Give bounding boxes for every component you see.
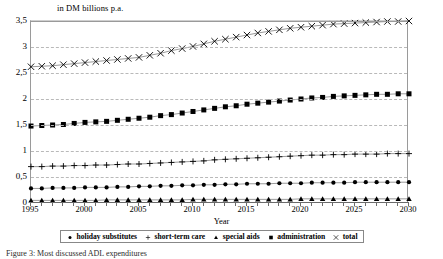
- x-axis-tick: [235, 202, 236, 206]
- data-point: [353, 93, 358, 98]
- data-point: [212, 157, 218, 163]
- x-axis-tick: [52, 202, 53, 206]
- chart-legend: holiday substitutesshort-term carespecia…: [60, 230, 364, 243]
- data-point: [126, 185, 130, 189]
- data-point: [223, 182, 227, 186]
- x-axis-tick: [170, 202, 171, 206]
- x-axis-tick: [149, 202, 150, 206]
- y-axis-tick-label: 2: [1, 93, 27, 103]
- data-point: [364, 180, 368, 184]
- series-line: [31, 199, 409, 201]
- data-point: [266, 154, 272, 160]
- data-point: [266, 100, 271, 105]
- legend-label: special aids: [223, 232, 260, 241]
- data-point: [276, 154, 282, 160]
- data-point: [320, 152, 326, 158]
- data-point: [191, 183, 195, 187]
- chart-figure: in DM billions p.a. 3,532,521,510,50 199…: [0, 0, 443, 259]
- gridline: [31, 125, 407, 126]
- data-point: [137, 116, 142, 121]
- data-point: [191, 109, 196, 114]
- gridline: [31, 177, 407, 178]
- data-point: [407, 180, 411, 184]
- data-point: [83, 185, 87, 189]
- data-point: [255, 30, 261, 36]
- data-point: [126, 117, 131, 122]
- y-axis-tick-label: 2,5: [1, 67, 27, 77]
- legend-label: total: [343, 232, 358, 241]
- data-point: [331, 181, 335, 185]
- data-point: [299, 181, 303, 185]
- legend-item: special aids: [212, 232, 259, 241]
- data-point: [245, 102, 250, 107]
- figure-caption: Figure 3: Most discussed ADL expenditure…: [6, 249, 147, 258]
- data-point: [94, 185, 98, 189]
- data-point: [407, 91, 412, 96]
- data-point: [115, 185, 119, 189]
- data-point: [60, 163, 66, 169]
- data-point: [190, 158, 196, 164]
- data-point: [222, 36, 228, 42]
- data-point: [28, 164, 34, 170]
- data-point: [256, 182, 260, 186]
- data-point: [244, 32, 250, 38]
- data-point: [29, 186, 33, 190]
- x-axis-tick: [257, 202, 258, 206]
- data-point: [309, 152, 315, 158]
- data-point: [342, 181, 346, 185]
- data-point: [82, 163, 88, 169]
- data-point: [211, 38, 217, 44]
- gridline: [31, 47, 407, 48]
- data-point: [147, 160, 153, 166]
- data-point: [201, 158, 207, 164]
- data-point: [137, 184, 141, 188]
- data-point: [234, 182, 238, 186]
- data-point: [233, 156, 239, 162]
- data-point: [157, 50, 163, 56]
- data-point: [114, 162, 120, 168]
- data-point: [201, 107, 206, 112]
- data-point: [180, 183, 184, 187]
- data-point: [223, 104, 228, 109]
- legend-label: short-term care: [155, 232, 206, 241]
- data-point: [342, 93, 347, 98]
- data-point: [222, 156, 228, 162]
- y-axis-tick-label: 0,5: [1, 171, 27, 181]
- data-point: [158, 113, 163, 118]
- data-point: [396, 180, 400, 184]
- data-point: [147, 115, 152, 120]
- series-line: [31, 182, 409, 188]
- data-point: [158, 160, 164, 166]
- data-point: [233, 34, 239, 40]
- plot-area: [30, 20, 408, 202]
- data-point: [51, 186, 55, 190]
- series-layer: [31, 21, 409, 203]
- data-point: [202, 183, 206, 187]
- x-axis-tick-label: 2025: [346, 204, 363, 214]
- x-axis-tick-label: 2015: [238, 204, 255, 214]
- y-axis-tick-label: 1: [1, 145, 27, 155]
- data-point: [330, 152, 336, 158]
- gridline: [31, 151, 407, 152]
- series-short-term-care: [28, 151, 412, 170]
- x-axis-tick-label: 1995: [22, 204, 39, 214]
- data-point: [39, 164, 45, 170]
- x-axis-tick: [224, 202, 225, 206]
- x-axis-tick-label: 2020: [292, 204, 309, 214]
- data-point: [136, 161, 142, 167]
- x-axis-tick: [386, 202, 387, 206]
- data-point: [115, 118, 120, 123]
- data-point: [298, 153, 304, 159]
- data-point: [288, 181, 292, 185]
- y-axis-tick-label: 3: [1, 41, 27, 51]
- data-point: [363, 151, 369, 157]
- data-point: [385, 180, 389, 184]
- x-axis-tick-label: 2005: [130, 204, 147, 214]
- data-point: [169, 112, 174, 117]
- x-axis-tick-label: 2010: [184, 204, 201, 214]
- x-axis-tick: [181, 202, 182, 206]
- data-point: [265, 28, 271, 34]
- gridline: [31, 73, 407, 74]
- x-axis-tick: [311, 202, 312, 206]
- data-point: [287, 153, 293, 159]
